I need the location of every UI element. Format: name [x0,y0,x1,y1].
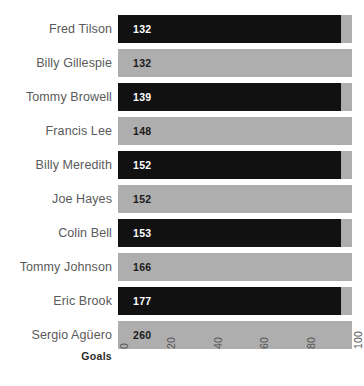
x-axis-tick: 60 [251,349,265,379]
bar-row: Billy Gillespie132 [0,46,364,80]
bar-value-label: 152 [133,151,151,179]
bar-overflow-cap [341,287,352,315]
bar-track: 139 [118,83,352,111]
x-axis-tick: 100 [345,349,359,379]
bar-row: Eric Brook177 [0,284,364,318]
category-label: Eric Brook [0,284,112,318]
x-axis-tick-label: 80 [305,337,317,349]
category-label: Fred Tilson [0,12,112,46]
x-axis-tick-label: 40 [212,337,224,349]
x-axis-title: Goals [0,349,112,363]
bar-value-label: 148 [133,117,151,145]
bar-row: Francis Lee148 [0,114,364,148]
bar[interactable] [118,253,352,281]
bar-track: 148 [118,117,352,145]
bar[interactable] [118,83,341,111]
bar-overflow-cap [341,151,352,179]
bar-track: 153 [118,219,352,247]
x-axis-tick: 40 [205,349,219,379]
bar-row: Billy Meredith152 [0,148,364,182]
category-label: Joe Hayes [0,182,112,216]
category-label: Colin Bell [0,216,112,250]
bar-row: Tommy Browell139 [0,80,364,114]
bar[interactable] [118,185,352,213]
bar-overflow-cap [341,15,352,43]
x-axis-tick-label: 0 [118,343,130,349]
x-axis-tick-label: 100 [352,331,364,349]
x-axis-tick: 20 [158,349,172,379]
x-axis-tick: 0 [111,349,125,379]
bar-chart: Fred Tilson132Billy Gillespie132Tommy Br… [0,0,364,386]
bar-track: 132 [118,15,352,43]
category-label: Billy Meredith [0,148,112,182]
category-label: Billy Gillespie [0,46,112,80]
bar-track: 152 [118,151,352,179]
x-axis-tick-label: 20 [165,337,177,349]
category-label: Francis Lee [0,114,112,148]
bar-value-label: 139 [133,83,151,111]
bar-value-label: 260 [133,321,151,349]
bar-value-label: 152 [133,185,151,213]
bar-value-label: 132 [133,49,151,77]
bar-row: Joe Hayes152 [0,182,364,216]
bar[interactable] [118,15,341,43]
category-label: Tommy Browell [0,80,112,114]
category-label: Sergio Agüero [0,318,112,352]
bar[interactable] [118,49,352,77]
bar-track: 132 [118,49,352,77]
bar-value-label: 153 [133,219,151,247]
x-axis-tick-label: 60 [258,337,270,349]
bar-track: 166 [118,253,352,281]
bar-overflow-cap [341,83,352,111]
category-label: Tommy Johnson [0,250,112,284]
x-axis-tick: 80 [298,349,312,379]
bar-value-label: 132 [133,15,151,43]
bar[interactable] [118,151,341,179]
x-axis: Goals 020406080100 [0,349,364,386]
bar-overflow-cap [341,219,352,247]
bar-row: Tommy Johnson166 [0,250,364,284]
bar[interactable] [118,287,341,315]
bar-value-label: 166 [133,253,151,281]
bar-track: 152 [118,185,352,213]
bar[interactable] [118,219,341,247]
bar-value-label: 177 [133,287,151,315]
bar-row: Colin Bell153 [0,216,364,250]
bar-row: Fred Tilson132 [0,12,364,46]
bar[interactable] [118,117,352,145]
bar-track: 177 [118,287,352,315]
